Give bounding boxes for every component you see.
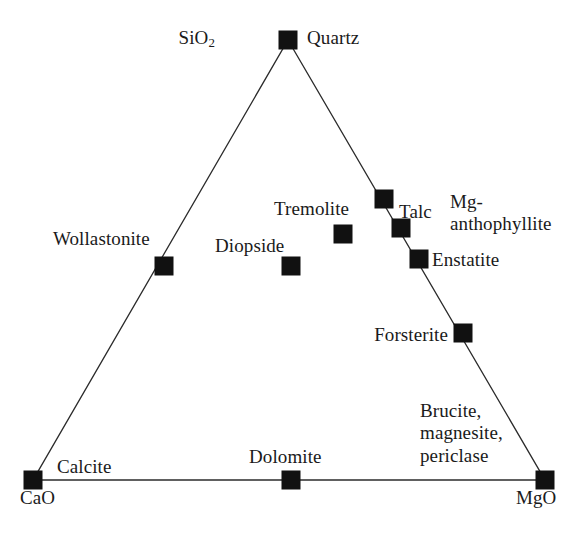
marker-forsterite <box>454 324 473 343</box>
label-mgo: MgO <box>516 487 556 509</box>
label-quartz: Quartz <box>307 27 359 49</box>
label-cao: CaO <box>20 487 55 509</box>
label-mg-anthophyllite: Mg- anthophyllite <box>450 191 575 236</box>
marker-tremolite <box>334 225 353 244</box>
label-brucite-line1: Brucite, <box>420 400 481 421</box>
label-sio2: SiO2 <box>135 27 215 50</box>
label-dolomite: Dolomite <box>249 446 322 468</box>
label-calcite: Calcite <box>57 456 112 478</box>
label-talc: Talc <box>399 201 432 223</box>
label-enstatite: Enstatite <box>432 249 499 271</box>
label-brucite-group: Brucite, magnesite, periclase <box>420 400 540 467</box>
label-tremolite: Tremolite <box>274 198 349 220</box>
marker-wollastonite <box>155 257 174 276</box>
label-forsterite: Forsterite <box>318 324 448 346</box>
marker-quartz <box>279 31 298 50</box>
marker-dolomite <box>282 471 301 490</box>
label-wollastonite: Wollastonite <box>53 228 150 250</box>
marker-diopside <box>282 257 301 276</box>
label-mg-anthophyllite-line2: anthophyllite <box>450 213 552 234</box>
ternary-phase-diagram: SiO2 Quartz Talc Mg- anthophyllite Ensta… <box>0 0 579 539</box>
label-diopside: Diopside <box>215 235 284 257</box>
label-mg-anthophyllite-line1: Mg- <box>450 191 483 212</box>
label-brucite-line3: periclase <box>420 445 488 466</box>
marker-enstatite <box>410 250 429 269</box>
label-sio2-subscript: 2 <box>208 35 215 50</box>
label-brucite-line2: magnesite, <box>420 422 503 443</box>
label-sio2-text: SiO <box>179 27 209 48</box>
marker-talc <box>375 190 394 209</box>
